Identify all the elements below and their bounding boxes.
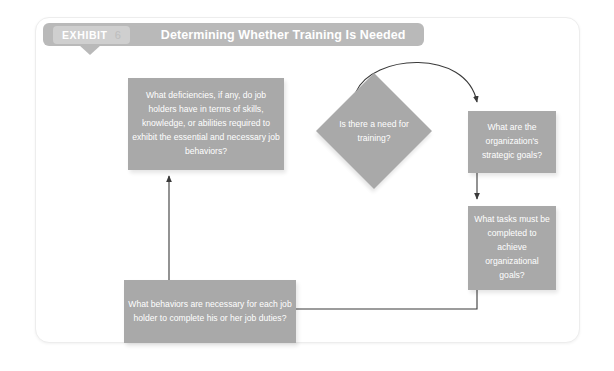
flow-node-deficiencies: What deficiencies, if any, do job holder…	[128, 78, 284, 170]
exhibit-panel: EXHIBIT 6 Determining Whether Training I…	[35, 17, 580, 343]
flow-node-tasks: What tasks must be completed to achieve …	[468, 206, 556, 290]
flowchart-connectors	[36, 18, 581, 344]
flow-node-organization-goals: What are the organization's strategic go…	[468, 111, 556, 173]
flow-node-behaviors: What behaviors are necessary for each jo…	[124, 280, 296, 343]
